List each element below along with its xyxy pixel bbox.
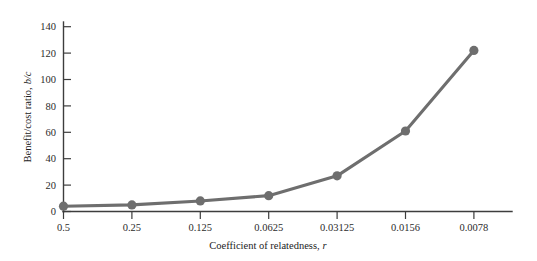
x-tick-label-3: 0.0625: [254, 222, 283, 233]
x-tick-label-6: 0.0078: [459, 222, 488, 233]
y-tick-label-100: 100: [40, 74, 56, 85]
y-axis-tick-labels: 0 20 40 60 80 100 120 140: [40, 21, 56, 217]
x-tick-label-4: 0.03125: [320, 222, 354, 233]
x-tick-label-1: 0.25: [123, 222, 141, 233]
x-axis-tick-labels: 0.5 0.25 0.125 0.0625 0.03125 0.0156 0.0…: [57, 222, 488, 233]
data-point: [59, 202, 68, 211]
data-point: [333, 171, 342, 180]
data-point: [264, 191, 273, 200]
x-axis-title: Coefficient of relatedness,r: [209, 240, 327, 251]
data-point: [127, 200, 136, 209]
y-tick-label-140: 140: [40, 21, 56, 32]
x-tick-label-5: 0.0156: [391, 222, 420, 233]
data-markers-group: [59, 46, 479, 211]
y-tick-label-80: 80: [46, 101, 57, 112]
y-tick-label-40: 40: [46, 153, 57, 164]
y-axis-title-text: Benefit/cost ratio,: [22, 87, 33, 162]
x-tick-label-0: 0.5: [57, 222, 70, 233]
y-tick-label-60: 60: [46, 127, 57, 138]
y-tick-label-0: 0: [51, 206, 56, 217]
y-axis-ticks: [64, 27, 72, 212]
x-axis-title-text: Coefficient of relatedness,: [209, 240, 319, 251]
x-axis-title-symbol: r: [323, 240, 328, 251]
data-point: [401, 126, 410, 135]
data-point: [469, 46, 478, 55]
x-tick-label-2: 0.125: [188, 222, 212, 233]
y-axis-title-symbol: b/c: [22, 71, 33, 84]
data-line-benefit-cost: [64, 50, 474, 206]
y-axis-title: Benefit/cost ratio,b/c: [22, 71, 33, 162]
chart-figure: 0 20 40 60 80 100 120 140 0.5 0.25 0.125…: [0, 0, 537, 261]
y-tick-label-120: 120: [40, 48, 56, 59]
data-series-group: [59, 46, 479, 211]
line-chart: 0 20 40 60 80 100 120 140 0.5 0.25 0.125…: [0, 0, 537, 261]
x-axis-ticks: [64, 212, 474, 220]
data-point: [196, 196, 205, 205]
y-tick-label-20: 20: [46, 180, 57, 191]
